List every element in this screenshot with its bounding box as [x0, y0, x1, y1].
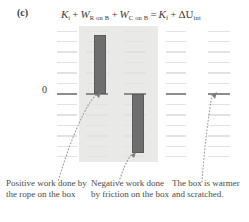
gridline-tick	[86, 156, 108, 157]
caption-negative-work-friction: Negative work done by friction on the bo…	[91, 178, 169, 200]
gridline-tick	[124, 51, 146, 52]
gridline-tick	[208, 83, 230, 84]
gridline-column-k-initial	[57, 26, 77, 162]
term-work-rope-on-box: WR on B	[81, 8, 110, 20]
gridline-tick	[208, 31, 230, 32]
gridline-tick	[57, 62, 77, 63]
caption-positive-work-rope: Positive work done by the rope on the bo…	[6, 178, 90, 200]
panel-label: (c)	[17, 7, 28, 18]
gridline-tick	[166, 51, 186, 52]
term-k-final: Kf	[159, 8, 169, 20]
gridline-tick	[124, 156, 146, 157]
gridline-tick	[124, 62, 146, 63]
gridline-tick	[208, 125, 230, 126]
gridline-tick	[86, 135, 108, 136]
operator-equals: =	[148, 8, 158, 20]
gridline-tick	[166, 156, 186, 157]
gridline-tick	[166, 135, 186, 136]
gridline-tick	[208, 146, 230, 147]
gridline-tick	[166, 104, 186, 105]
gridline-tick	[208, 72, 230, 73]
energy-equation: Ki+WR on B+WC on B=Kf+ΔUint	[61, 6, 247, 24]
gridline-tick	[86, 114, 108, 115]
gridline-tick	[86, 146, 108, 147]
gridline-tick	[57, 156, 77, 157]
gridline-tick	[57, 135, 77, 136]
bar-chart-plot-area: 0	[0, 26, 249, 162]
gridline-column-delta-u	[208, 26, 230, 162]
gridline-tick	[57, 83, 77, 84]
gridline-tick	[208, 114, 230, 115]
gridline-tick	[57, 31, 77, 32]
zero-tick	[166, 93, 186, 95]
gridline-tick	[124, 83, 146, 84]
term-work-concrete-on-box: WC on B	[120, 8, 149, 20]
term-k-initial: Ki	[61, 8, 70, 20]
bar-work-rope-on-box	[94, 35, 106, 94]
gridline-tick	[124, 72, 146, 73]
gridline-tick	[57, 41, 77, 42]
gridline-tick	[208, 104, 230, 105]
gridline-tick	[86, 104, 108, 105]
gridline-tick	[166, 62, 186, 63]
gridline-tick	[57, 146, 77, 147]
gridline-tick	[57, 114, 77, 115]
gridline-tick	[86, 125, 108, 126]
operator-plus-1: +	[70, 8, 80, 20]
gridline-tick	[166, 31, 186, 32]
gridline-tick	[57, 125, 77, 126]
gridline-tick	[166, 41, 186, 42]
gridline-tick	[166, 146, 186, 147]
operator-plus-2: +	[109, 8, 119, 20]
gridline-tick	[166, 72, 186, 73]
gridline-tick	[208, 41, 230, 42]
gridline-tick	[208, 156, 230, 157]
gridline-tick	[166, 125, 186, 126]
zero-tick	[208, 93, 230, 95]
gridline-tick	[166, 114, 186, 115]
gridline-tick	[57, 51, 77, 52]
gridline-tick	[208, 62, 230, 63]
gridline-tick	[124, 31, 146, 32]
gridline-tick	[124, 41, 146, 42]
bar-work-concrete-on-box	[132, 94, 144, 153]
gridline-tick	[86, 31, 108, 32]
gridline-tick	[208, 51, 230, 52]
gridline-tick	[208, 135, 230, 136]
gridline-tick	[57, 104, 77, 105]
gridline-column-k-final	[166, 26, 186, 162]
caption-row: Positive work done by the rope on the bo…	[0, 178, 249, 222]
gridline-tick	[166, 83, 186, 84]
zero-tick	[57, 93, 77, 95]
term-delta-u-internal: ΔUint	[179, 8, 202, 20]
energy-bar-chart-figure: (c) Ki+WR on B+WC on B=Kf+ΔUint 0 Positi…	[0, 0, 249, 222]
zero-axis-label: 0	[42, 84, 47, 95]
operator-plus-3: +	[168, 8, 178, 20]
gridline-tick	[57, 72, 77, 73]
caption-box-warmer-scratched: The box is warmer and scratched.	[172, 178, 246, 200]
